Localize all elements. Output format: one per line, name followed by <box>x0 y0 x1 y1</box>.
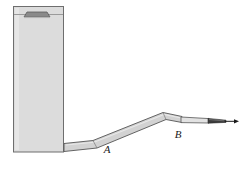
nozzle-barrel <box>181 117 209 123</box>
pipe-body <box>64 113 182 152</box>
tank-group <box>14 7 64 153</box>
tank-inner-highlight <box>15 8 19 150</box>
label-point-b: B <box>175 128 182 140</box>
tank-top-hatch <box>24 12 50 17</box>
nozzle-group <box>181 117 226 123</box>
fluid-jet-arrow-head <box>234 119 239 123</box>
tank-cap-group <box>24 12 50 18</box>
diagram-canvas: A B <box>0 0 241 170</box>
figure-container: A B <box>0 0 241 170</box>
jet-group <box>225 119 239 123</box>
label-point-a: A <box>103 143 111 155</box>
discharge-pipe-group <box>64 113 182 152</box>
tank-body <box>14 7 64 153</box>
